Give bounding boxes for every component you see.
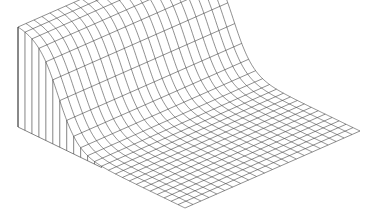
mesh-line-v [115, 97, 290, 174]
side-wall [18, 27, 102, 168]
mesh-line-u [193, 0, 360, 131]
mesh-line-v [81, 71, 256, 148]
mesh-line-v [46, 0, 221, 62]
mesh-line-v [74, 59, 249, 136]
mesh-line-v [164, 121, 339, 198]
mesh-line-v [122, 100, 297, 177]
mesh-line-u [90, 0, 257, 177]
mesh-line-u [185, 0, 352, 135]
mesh-line-u [106, 0, 273, 170]
mesh-line-v [108, 93, 283, 170]
mesh-line-u [153, 0, 320, 149]
mesh-line-u [137, 0, 304, 156]
mesh-line-v [136, 107, 311, 184]
mesh-line-u [177, 0, 344, 138]
mesh-line-u [161, 0, 328, 145]
mesh-line-u [121, 0, 288, 163]
surface-wireframe-plot [0, 0, 376, 216]
mesh-line-v [157, 117, 332, 194]
surface-mesh [18, 0, 360, 208]
